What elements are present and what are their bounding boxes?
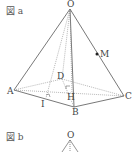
edge-BC — [74, 96, 124, 107]
line-OI — [46, 9, 70, 98]
label-O: O — [67, 0, 74, 9]
label-B: B — [72, 108, 79, 117]
pyramid-diagram-b — [62, 140, 78, 152]
label-A: A — [7, 87, 14, 96]
label-H: H — [67, 93, 75, 102]
label-M: M — [100, 50, 109, 59]
figure-b-label: 図 b — [6, 130, 24, 143]
label-I: I — [41, 100, 45, 109]
point-M — [96, 53, 99, 56]
right-angle-H — [66, 86, 70, 89]
label-D: D — [57, 72, 64, 81]
label-C: C — [125, 92, 132, 101]
edge-AD — [14, 79, 62, 90]
label-O-b: O — [67, 131, 74, 140]
